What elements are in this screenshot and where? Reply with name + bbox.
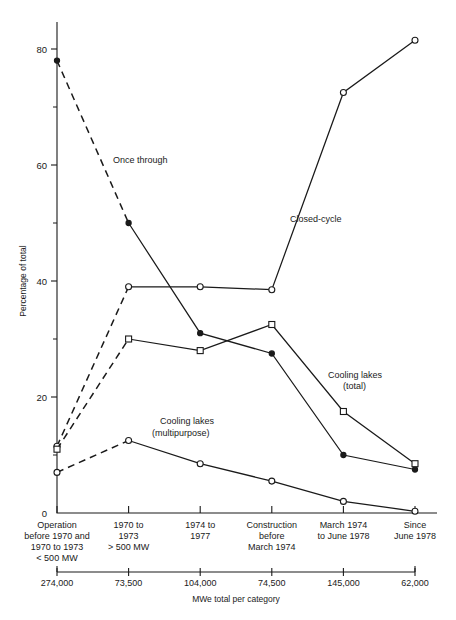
series-line: [129, 40, 415, 289]
x-axis-category-label: 1977: [190, 531, 210, 541]
line-chart: 020406080Percentage of totalOperationbef…: [0, 0, 456, 620]
data-point-marker: [269, 287, 275, 293]
data-point-marker: [54, 469, 60, 475]
chart-axes: [57, 22, 437, 513]
x-axis-category-label: June 1978: [394, 531, 436, 541]
x-axis-category-label: March 1974: [320, 520, 368, 530]
data-point-marker: [54, 446, 60, 452]
x-axis-category-label: before 1970 and: [24, 531, 90, 541]
y-axis-tick-label: 40: [36, 276, 47, 287]
data-point-marker: [198, 331, 203, 336]
data-point-marker: [412, 37, 418, 43]
x-axis-category-label: 1970 to 1973: [31, 542, 84, 552]
x-axis-category-label: 1974 to: [185, 520, 215, 530]
data-point-marker: [412, 461, 418, 467]
data-point-marker: [341, 452, 346, 457]
data-point-marker: [197, 348, 203, 354]
series-annotation-label: Cooling lakes: [160, 416, 215, 426]
x-axis-title: MWe total per category: [192, 594, 280, 604]
chart-container: 020406080Percentage of totalOperationbef…: [0, 0, 456, 620]
data-point-marker: [54, 58, 59, 63]
x-axis-category-label: before: [259, 531, 285, 541]
secondary-axis-value-label: 145,000: [327, 578, 360, 588]
y-axis-tick-label: 80: [36, 44, 47, 55]
x-axis-category-label: March 1974: [248, 542, 296, 552]
y-axis-tick-label: 60: [36, 160, 47, 171]
x-axis-category-label: 1970 to: [114, 520, 144, 530]
x-axis-category-label: Since: [404, 520, 427, 530]
secondary-axis-value-label: 104,000: [184, 578, 217, 588]
series-annotation-label: (total): [343, 381, 366, 391]
series-annotation-label: (multipurpose): [152, 428, 210, 438]
x-axis-category-label: Construction: [247, 520, 298, 530]
x-axis-category-label: > 500 MW: [108, 542, 150, 552]
secondary-axis-value-label: 62,000: [401, 578, 429, 588]
data-point-marker: [126, 438, 132, 444]
series-segment-dashed: [57, 287, 129, 447]
x-axis-category-label: 1973: [119, 531, 139, 541]
data-point-marker: [269, 478, 275, 484]
data-point-marker: [340, 90, 346, 96]
data-point-marker: [340, 498, 346, 504]
y-axis-tick-label: 0: [42, 508, 47, 519]
x-axis-category-label: < 500 MW: [36, 553, 78, 563]
data-point-marker: [412, 467, 417, 472]
data-point-marker: [269, 322, 275, 328]
data-point-marker: [412, 508, 418, 514]
secondary-axis-value-label: 73,500: [115, 578, 143, 588]
data-point-marker: [126, 220, 131, 225]
series-segment-dashed: [57, 339, 129, 449]
x-axis-category-label: to June 1978: [317, 531, 369, 541]
series-annotation-label: Once through: [113, 155, 168, 165]
series-segment-dashed: [57, 441, 129, 473]
x-axis-category-label: Operation: [37, 520, 77, 530]
y-axis-title: Percentage of total: [18, 245, 28, 316]
y-axis-tick-label: 20: [36, 392, 47, 403]
series-line: [129, 441, 415, 512]
series-annotation-label: Closed-cycle: [290, 214, 342, 224]
data-point-marker: [126, 336, 132, 342]
series-segment-dashed: [57, 61, 129, 223]
data-point-marker: [269, 351, 274, 356]
data-point-marker: [197, 461, 203, 467]
series-annotation-label: Cooling lakes: [328, 370, 383, 380]
data-point-marker: [197, 284, 203, 290]
series-line: [129, 325, 415, 464]
secondary-axis-value-label: 74,500: [258, 578, 286, 588]
data-point-marker: [126, 284, 132, 290]
data-point-marker: [340, 409, 346, 415]
secondary-axis-value-label: 274,000: [41, 578, 74, 588]
